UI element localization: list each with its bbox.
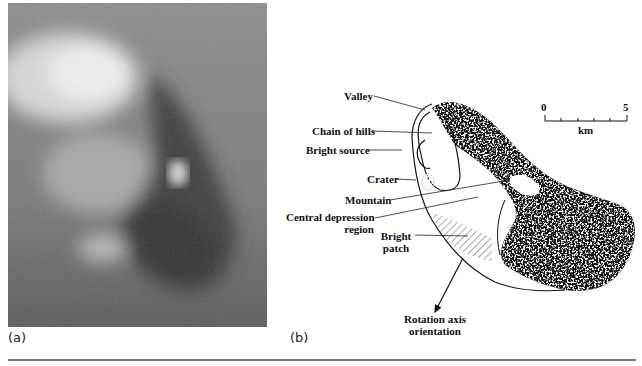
- scale-unit: km: [578, 124, 593, 136]
- bright-patch-hatch: [432, 212, 492, 262]
- label-valley: Valley: [344, 90, 373, 102]
- panel-b-label: (b): [290, 330, 308, 345]
- scale-max: 5: [623, 101, 629, 113]
- label-mountain: Mountain: [345, 194, 391, 206]
- nucleus-schematic: [0, 0, 642, 366]
- label-bright-patch: Bright patch: [378, 230, 414, 254]
- scale-bar: [545, 115, 627, 121]
- label-crater: Crater: [367, 173, 399, 185]
- dark-terrain: [432, 102, 635, 291]
- label-bright-source: Bright source: [306, 144, 370, 156]
- bottom-divider: [8, 359, 636, 361]
- label-central-depression: Central depression region: [286, 211, 374, 235]
- crater-marking: [421, 173, 435, 191]
- label-chain-of-hills: Chain of hills: [312, 125, 375, 137]
- scale-min: 0: [541, 101, 547, 113]
- label-rotation-axis: Rotation axis orientation: [385, 313, 485, 337]
- rotation-axis-arrow: [436, 258, 463, 310]
